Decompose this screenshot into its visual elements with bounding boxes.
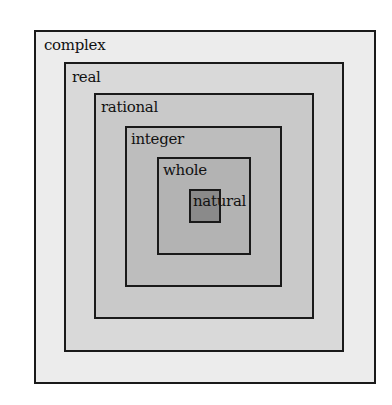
set-natural: natural	[189, 189, 221, 223]
label-complex: complex	[44, 38, 105, 53]
label-real: real	[72, 70, 101, 85]
label-natural: natural	[193, 194, 246, 209]
label-rational: rational	[101, 100, 158, 115]
label-whole: whole	[163, 163, 207, 178]
label-integer: integer	[131, 132, 184, 147]
